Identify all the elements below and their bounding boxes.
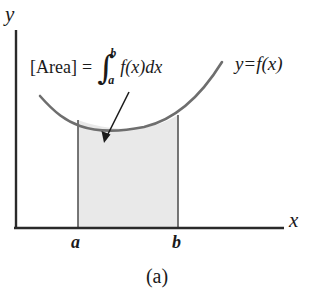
integral-group: ∫ b a f(x)dx	[97, 50, 162, 84]
integral-lower-limit: a	[108, 74, 114, 86]
area-equation: [Area] = ∫ b a f(x)dx	[30, 50, 162, 84]
figure-caption: (a)	[0, 265, 314, 288]
curve-label: y=f(x)	[235, 54, 283, 73]
tick-label-a: a	[71, 233, 80, 251]
axis-label-y: y	[5, 4, 14, 25]
curve-label-rhs: f(x)	[256, 53, 282, 74]
integral-limits: b a	[114, 50, 123, 84]
area-equation-equals: =	[82, 58, 92, 76]
tick-label-b: b	[172, 233, 181, 251]
curve-label-operator: =	[243, 53, 256, 74]
axis-label-x: x	[289, 210, 298, 231]
area-equation-left-term: [Area]	[30, 58, 77, 76]
figure-graphic	[0, 0, 314, 303]
shaded-area	[78, 115, 178, 228]
integrand: f(x)dx	[120, 58, 162, 76]
integral-upper-limit: b	[110, 47, 116, 59]
figure-container: y x a b y=f(x) [Area] = ∫ b a f(x)dx (a)	[0, 0, 314, 303]
